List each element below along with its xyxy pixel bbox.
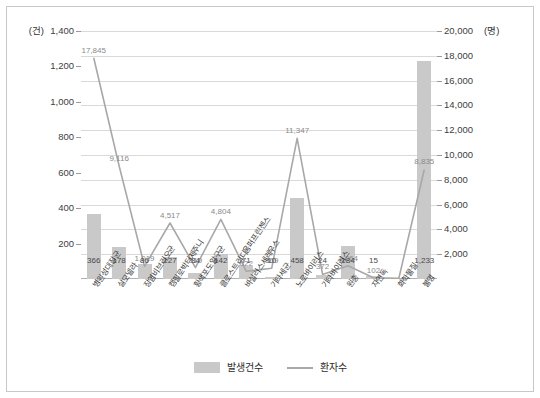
chart-frame: 1,4001,2001,000800600400200 20,00018,000…	[6, 6, 534, 392]
left-tick-label: 1,400	[50, 26, 74, 36]
right-tick-mark	[437, 229, 442, 230]
right-tick-mark	[437, 56, 442, 57]
right-tick-label: 14,000	[444, 101, 473, 111]
chart-figure: 1,4001,2001,000800600400200 20,00018,000…	[0, 0, 540, 398]
right-tick-mark	[437, 105, 442, 106]
right-tick-label: 18,000	[444, 51, 473, 61]
bar-value-label: 15	[369, 257, 378, 265]
line-series	[81, 31, 437, 279]
legend-label-occurrences: 발생건수	[227, 363, 263, 373]
line-value-label: 11,347	[285, 127, 309, 135]
right-tick-label: 6,000	[444, 200, 468, 210]
bar-value-label: 366	[87, 257, 100, 265]
line-value-label: 17,845	[81, 47, 105, 55]
right-tick-mark	[437, 81, 442, 82]
line-value-label: 4,517	[160, 212, 180, 220]
legend-item-patients[interactable]: 환자수	[287, 362, 347, 373]
right-tick-mark	[437, 205, 442, 206]
line-path	[94, 58, 425, 279]
line-swatch-icon	[287, 362, 313, 373]
left-tick-label: 200	[58, 239, 74, 249]
right-tick-mark	[437, 155, 442, 156]
bar-value-label: 1,233	[414, 257, 434, 265]
left-tick-label: 600	[58, 168, 74, 178]
bar-value-label: 458	[290, 257, 303, 265]
line-value-label: 4,804	[211, 208, 231, 216]
left-tick-label: 400	[58, 203, 74, 213]
right-tick-mark	[437, 130, 442, 131]
chart-legend: 발생건수 환자수	[7, 362, 533, 373]
right-tick-label: 8,000	[444, 175, 468, 185]
right-tick-mark	[437, 180, 442, 181]
right-tick-mark	[437, 31, 442, 32]
left-tick-label: 1,200	[50, 62, 74, 72]
right-tick-mark	[437, 254, 442, 255]
right-tick-label: 10,000	[444, 150, 473, 160]
bar-swatch-icon	[194, 362, 220, 373]
plot-area: 1,4001,2001,000800600400200 20,00018,000…	[81, 31, 437, 279]
line-value-label: 8,835	[414, 158, 434, 166]
left-tick-label: 1,000	[50, 97, 74, 107]
left-axis-unit: (건)	[29, 26, 44, 36]
line-value-label: 9,116	[109, 155, 128, 163]
legend-item-occurrences[interactable]: 발생건수	[194, 362, 263, 373]
right-axis-unit: (명)	[484, 26, 499, 36]
right-tick-label: 20,000	[444, 26, 473, 36]
legend-label-patients: 환자수	[320, 363, 347, 373]
right-tick-label: 16,000	[444, 76, 473, 86]
right-tick-label: 2,000	[444, 249, 468, 259]
right-tick-label: 4,000	[444, 225, 468, 235]
bar-value-label: 86	[140, 257, 149, 265]
left-tick-label: 800	[58, 133, 74, 143]
right-tick-label: 12,000	[444, 125, 473, 135]
